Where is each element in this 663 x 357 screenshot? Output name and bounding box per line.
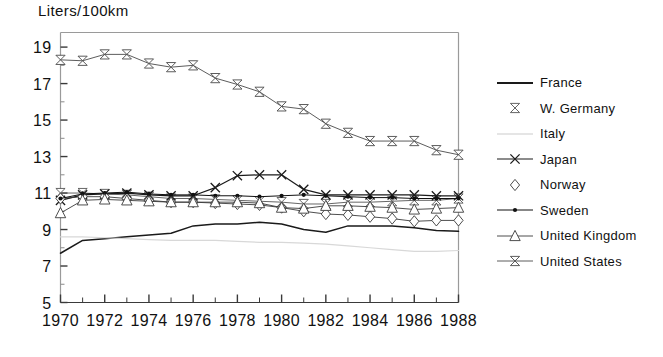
series-italy	[61, 237, 459, 252]
legend-marker-bowtie-line-icon	[495, 250, 535, 272]
series-france	[61, 222, 459, 253]
y-tick-label: 19	[33, 39, 51, 56]
y-tick-label: 17	[33, 76, 51, 93]
y-tick-label: 5	[42, 295, 51, 312]
legend-label: France	[535, 75, 582, 90]
legend-label: Norway	[535, 177, 586, 192]
legend-item-norway[interactable]: Norway	[495, 172, 663, 198]
legend-label: Japan	[535, 152, 577, 167]
y-tick-label: 13	[33, 149, 51, 166]
legend-marker-line-faint-icon	[495, 123, 535, 145]
x-tick-label: 1988	[440, 312, 477, 329]
legend-item-united-states[interactable]: United States	[495, 249, 663, 275]
y-tick-label: 9	[42, 222, 51, 239]
legend-label: United Kingdom	[535, 228, 637, 243]
legend-item-france[interactable]: France	[495, 70, 663, 96]
x-tick-label: 1986	[396, 312, 433, 329]
legend-marker-dot-line-icon	[495, 199, 535, 221]
x-tick-label: 1984	[352, 312, 389, 329]
legend-marker-diamond-icon	[495, 174, 535, 196]
y-tick-label: 15	[33, 112, 51, 129]
chart-root: Liters/100km 579111315171919701972197419…	[0, 0, 663, 357]
legend-marker-bowtie-icon	[495, 97, 535, 119]
legend-label: Sweden	[535, 203, 589, 218]
x-tick-label: 1976	[175, 312, 212, 329]
legend-item-sweden[interactable]: Sweden	[495, 198, 663, 224]
legend-item-united-kingdom[interactable]: United Kingdom	[495, 223, 663, 249]
x-tick-label: 1982	[307, 312, 344, 329]
legend-item-w-germany[interactable]: W. Germany	[495, 96, 663, 122]
legend-label: United States	[535, 254, 622, 269]
y-tick-label: 11	[34, 185, 51, 202]
legend-marker-triangle-line-icon	[495, 225, 535, 247]
x-tick-label: 1970	[42, 312, 79, 329]
series-united-states	[56, 50, 463, 160]
x-tick-label: 1978	[219, 312, 256, 329]
chart-legend: FranceW. GermanyItalyJapanNorwaySwedenUn…	[495, 70, 663, 274]
series-layer	[55, 50, 463, 253]
y-tick-label: 7	[42, 258, 51, 275]
legend-label: Italy	[535, 126, 565, 141]
legend-item-japan[interactable]: Japan	[495, 147, 663, 173]
x-tick-label: 1972	[86, 312, 123, 329]
legend-marker-x-line-icon	[495, 148, 535, 170]
axes-layer	[61, 33, 459, 303]
x-tick-label: 1974	[131, 312, 168, 329]
x-tick-label: 1980	[263, 312, 300, 329]
tick-label-layer: 5791113151719197019721974197619781980198…	[33, 39, 477, 328]
legend-item-italy[interactable]: Italy	[495, 121, 663, 147]
legend-marker-line-plain-icon	[495, 72, 535, 94]
legend-label: W. Germany	[535, 101, 615, 116]
